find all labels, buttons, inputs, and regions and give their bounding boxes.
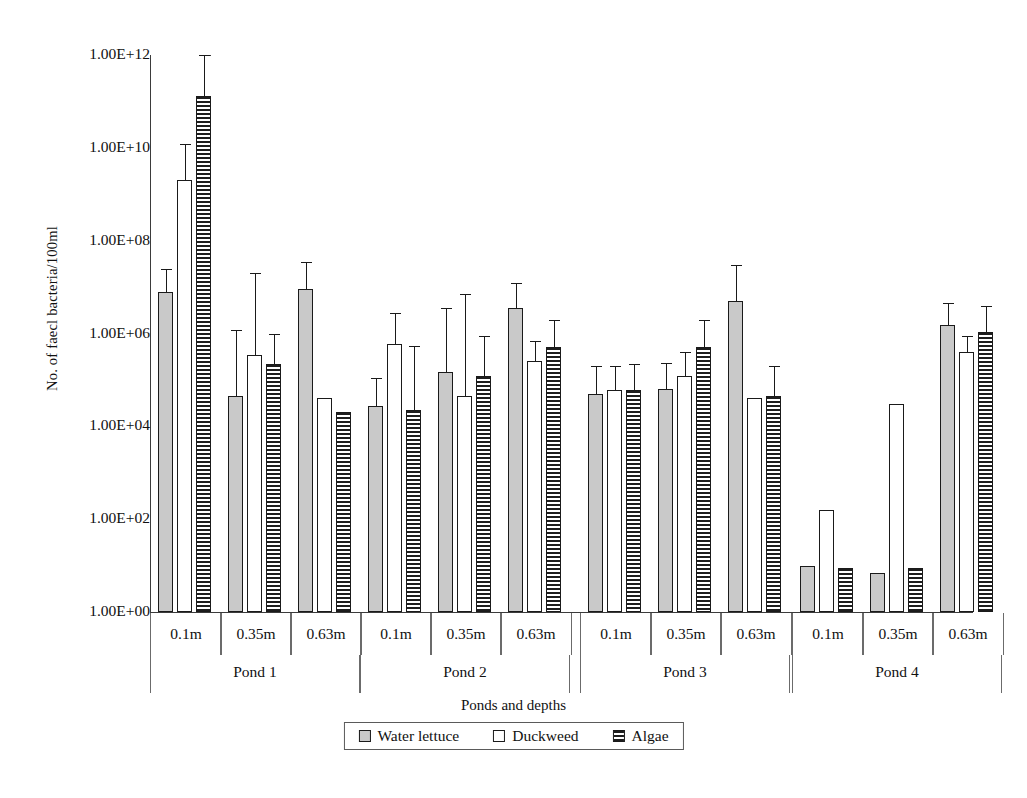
y-tick-label: 1.00E+10: [68, 138, 150, 156]
error-bar: [465, 294, 466, 396]
depth-label-0.35m: 0.35m: [650, 613, 722, 655]
error-bar-cap: [549, 320, 560, 321]
error-bar-cap: [610, 366, 621, 367]
legend: Water lettuce Duckweed Algae: [343, 722, 683, 750]
bar-algae: [838, 568, 853, 612]
error-bar: [634, 364, 635, 390]
bar-duckweed: [177, 180, 192, 612]
error-bar-cap: [511, 283, 522, 284]
pond-label-2: Pond 2: [360, 655, 570, 693]
error-bar: [446, 308, 447, 371]
pond-label-1: Pond 1: [150, 655, 360, 693]
error-bar: [516, 283, 517, 308]
error-bar: [736, 265, 737, 301]
error-bar: [666, 363, 667, 388]
depth-label-0.63m: 0.63m: [720, 613, 792, 655]
legend-swatch-water-lettuce: [358, 730, 370, 742]
y-tick-label: 1.00E+12: [68, 45, 150, 63]
depth-label-0.1m: 0.1m: [792, 613, 864, 655]
error-bar-cap: [409, 346, 420, 347]
error-bar: [306, 262, 307, 289]
bar-water-lettuce: [658, 389, 673, 612]
error-bar-cap: [199, 55, 210, 56]
bar-algae: [908, 568, 923, 612]
depth-label-0.35m: 0.35m: [430, 613, 502, 655]
error-bar-cap: [371, 378, 382, 379]
bar-algae: [978, 332, 993, 612]
legend-label-duckweed: Duckweed: [512, 727, 578, 745]
bar-duckweed: [387, 344, 402, 612]
pond-label-4: Pond 4: [792, 655, 1002, 693]
error-bar: [596, 366, 597, 394]
bar-algae: [406, 410, 421, 612]
bar-duckweed: [457, 396, 472, 612]
bar-water-lettuce: [728, 301, 743, 612]
bar-water-lettuce: [368, 406, 383, 612]
error-bar: [774, 366, 775, 396]
error-bar-cap: [981, 306, 992, 307]
bar-water-lettuce: [940, 325, 955, 612]
error-bar: [554, 320, 555, 348]
error-bar-cap: [460, 294, 471, 295]
error-bar-cap: [180, 144, 191, 145]
error-bar-cap: [301, 262, 312, 263]
error-bar: [255, 273, 256, 355]
error-bar: [414, 346, 415, 411]
bar-algae: [696, 347, 711, 612]
error-bar: [274, 334, 275, 365]
error-bar-cap: [661, 363, 672, 364]
bar-algae: [336, 412, 351, 612]
faecal-bacteria-bar-chart: No. of faecl bacteria/100ml 1.00E+121.00…: [0, 0, 1027, 798]
legend-label-water-lettuce: Water lettuce: [377, 727, 459, 745]
error-bar-cap: [591, 366, 602, 367]
bar-water-lettuce: [298, 289, 313, 612]
error-bar: [986, 306, 987, 332]
bar-algae: [196, 96, 211, 612]
bar-duckweed: [677, 376, 692, 612]
depth-label-0.1m: 0.1m: [150, 613, 222, 655]
bar-duckweed: [317, 398, 332, 612]
bar-water-lettuce: [870, 573, 885, 612]
bar-duckweed: [889, 404, 904, 612]
y-axis-title: No. of faecl bacteria/100ml: [44, 199, 61, 419]
bar-water-lettuce: [438, 372, 453, 612]
error-bar: [204, 55, 205, 96]
error-bar-cap: [699, 320, 710, 321]
bar-duckweed: [959, 352, 974, 612]
y-tick-label: 1.00E+06: [68, 324, 150, 342]
error-bar-cap: [530, 341, 541, 342]
legend-label-algae: Algae: [632, 727, 669, 745]
error-bar-cap: [629, 364, 640, 365]
bar-water-lettuce: [588, 394, 603, 612]
error-bar: [704, 320, 705, 348]
error-bar-cap: [769, 366, 780, 367]
bar-algae: [766, 396, 781, 612]
y-tick-label: 1.00E+04: [68, 416, 150, 434]
pond-label-3: Pond 3: [580, 655, 790, 693]
error-bar: [376, 378, 377, 406]
x-axis-title: Ponds and depths: [0, 697, 1027, 714]
error-bar: [685, 352, 686, 376]
error-bar: [535, 341, 536, 362]
error-bar: [185, 144, 186, 180]
bar-algae: [476, 376, 491, 612]
y-tick-label: 1.00E+08: [68, 231, 150, 249]
error-bar-cap: [441, 308, 452, 309]
plot-area: [151, 55, 973, 612]
bar-water-lettuce: [228, 396, 243, 612]
bar-duckweed: [819, 510, 834, 612]
legend-item-water-lettuce: Water lettuce: [358, 727, 459, 745]
depth-label-0.63m: 0.63m: [290, 613, 362, 655]
error-bar: [948, 303, 949, 325]
depth-label-0.35m: 0.35m: [862, 613, 934, 655]
depth-label-0.1m: 0.1m: [580, 613, 652, 655]
y-tick-label: 1.00E+02: [68, 509, 150, 527]
error-bar-cap: [479, 336, 490, 337]
error-bar: [166, 269, 167, 292]
depth-label-0.1m: 0.1m: [360, 613, 432, 655]
error-bar: [484, 336, 485, 377]
error-bar-cap: [962, 336, 973, 337]
bar-duckweed: [747, 398, 762, 612]
bar-algae: [546, 347, 561, 612]
legend-item-algae: Algae: [613, 727, 669, 745]
